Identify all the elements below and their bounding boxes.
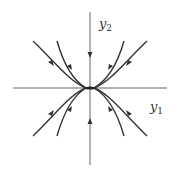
trajectory-lower-left-inner [57, 88, 86, 136]
y2-axis-arrow-down-icon [88, 52, 93, 58]
y1-axis-label: y1 [149, 99, 163, 116]
y2-axis-arrow-up-icon [88, 118, 93, 124]
trajectory-upper-left-inner [57, 41, 86, 88]
y2-axis-label: y2 [98, 16, 112, 33]
trajectory-lower-right-outer [94, 88, 147, 136]
trajectory-upper-right-outer [94, 41, 147, 88]
phase-portrait: y2 y1 [0, 0, 179, 174]
origin-node [85, 86, 95, 89]
